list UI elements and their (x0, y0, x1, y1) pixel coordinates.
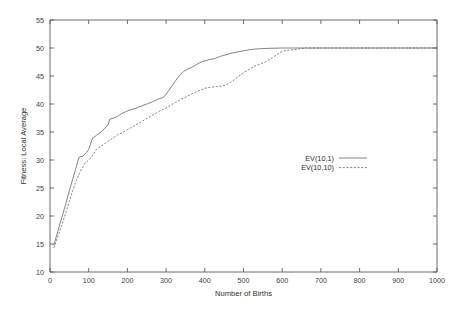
x-axis-title: Number of Births (215, 289, 272, 298)
series-line-ev101 (54, 48, 437, 245)
y-tick-label: 15 (36, 240, 44, 249)
line-chart: 0100200300400500600700800900100010152025… (0, 0, 455, 310)
x-tick-label: 100 (83, 276, 95, 285)
x-tick-label: 700 (315, 276, 327, 285)
y-tick-label: 55 (36, 16, 44, 25)
y-tick-label: 25 (36, 184, 44, 193)
y-axis-title: Fitness: Local Average (19, 108, 28, 185)
legend-label-1: EV(10,10) (301, 163, 334, 172)
axis-titles: Number of Births Fitness: Local Average (19, 108, 272, 298)
x-tick-label: 600 (276, 276, 288, 285)
axes: 0100200300400500600700800900100010152025… (36, 16, 445, 285)
y-tick-label: 40 (36, 100, 44, 109)
chart-figure: 0100200300400500600700800900100010152025… (0, 0, 455, 310)
y-tick-label: 45 (36, 72, 44, 81)
y-tick-label: 50 (36, 44, 44, 53)
y-tick-label: 30 (36, 156, 44, 165)
legend-label-0: EV(10,1) (305, 154, 334, 163)
series-lines (54, 48, 437, 248)
y-tick-label: 35 (36, 128, 44, 137)
x-tick-label: 1000 (429, 276, 445, 285)
x-tick-label: 800 (354, 276, 366, 285)
plot-frame (50, 20, 437, 272)
y-tick-label: 10 (36, 268, 44, 277)
x-tick-label: 400 (199, 276, 211, 285)
x-tick-label: 200 (121, 276, 133, 285)
chart-legend: EV(10,1)EV(10,10) (301, 154, 367, 173)
x-tick-label: 300 (160, 276, 172, 285)
x-tick-label: 900 (392, 276, 404, 285)
x-tick-label: 0 (48, 276, 52, 285)
x-tick-label: 500 (238, 276, 250, 285)
series-line-ev1010 (54, 48, 437, 248)
y-tick-label: 20 (36, 212, 44, 221)
